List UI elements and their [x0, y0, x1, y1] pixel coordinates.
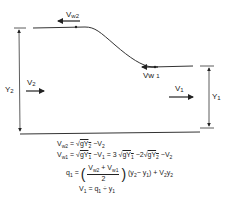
y1-label: Y1: [212, 92, 221, 103]
equation-vw2: Vw2 = √gY2 −V2: [57, 140, 105, 150]
vw2-point: [75, 26, 77, 28]
vw1-label-sub: 1: [156, 73, 159, 79]
v1-label: V1: [175, 84, 184, 95]
y2-dimension-line: [19, 30, 20, 131]
vw2-label: Vw2: [66, 10, 79, 21]
vw1-label-main: Vw: [143, 71, 154, 80]
water-surface-line: [33, 27, 193, 67]
vw1-point: [154, 66, 156, 68]
v2-label-sub: 2: [32, 81, 35, 87]
vw1-label: Vw 1: [143, 71, 160, 81]
equation-vw1: Vw1 = √gY1 −V1 = 3 √gY1 −2√gY2 −V2: [57, 151, 172, 161]
equation-q1: q1 = ( Vw2 + Vw1 2 ) (y2− y1) + V2y2: [66, 164, 173, 183]
y2-label: Y2: [5, 85, 14, 96]
vw2-label-sub: w2: [71, 13, 79, 19]
v1-label-sub: 1: [180, 87, 183, 93]
v2-label: V2: [27, 78, 36, 89]
y1-label-sub: 1: [217, 95, 220, 101]
channel-bed-line: [20, 132, 200, 134]
equation-v1: V1 = q1 ÷ y1: [79, 185, 115, 195]
y2-label-sub: 2: [10, 88, 13, 94]
